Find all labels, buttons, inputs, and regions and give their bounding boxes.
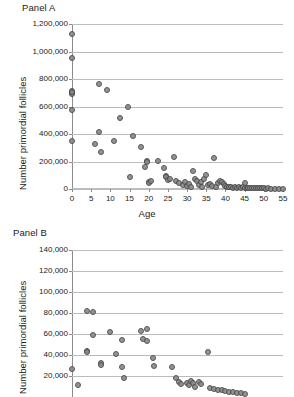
scatter-point — [69, 107, 75, 113]
scatter-point — [190, 168, 196, 174]
x-tick-label: 20 — [144, 194, 153, 203]
panel-a-plot-area: 0200,000400,000600,000800,0001,000,0001,… — [72, 24, 283, 189]
x-tick-mark — [206, 189, 207, 192]
scatter-point — [90, 309, 96, 315]
scatter-point — [211, 155, 217, 161]
gridline-horizontal — [72, 24, 283, 25]
gridline-horizontal — [72, 334, 283, 335]
scatter-point — [113, 351, 119, 357]
x-axis-ticks: 0510152025303540455055 — [72, 189, 283, 207]
y-tick-mark — [69, 134, 72, 135]
y-tick-label: 800,000 — [39, 75, 68, 83]
x-tick-mark — [187, 189, 188, 192]
y-tick-label: 600,000 — [39, 103, 68, 111]
panel-a: Panel A Number primordial follicles Age … — [0, 0, 294, 222]
y-tick-label: 200,000 — [39, 158, 68, 166]
y-tick-mark — [69, 334, 72, 335]
scatter-point — [119, 364, 125, 370]
scatter-point — [69, 366, 75, 372]
scatter-point — [171, 154, 177, 160]
scatter-point — [104, 87, 110, 93]
y-tick-mark — [69, 162, 72, 163]
scatter-point — [98, 149, 104, 155]
x-tick-label: 50 — [259, 194, 268, 203]
y-tick-mark — [69, 355, 72, 356]
scatter-point — [167, 176, 173, 182]
y-tick-label: 0 — [64, 185, 68, 193]
scatter-point — [142, 164, 148, 170]
gridline-horizontal — [72, 52, 283, 53]
gridline-horizontal — [72, 250, 283, 251]
panel-a-y-axis-title: Number primordial follicles — [17, 77, 28, 190]
x-tick-label: 5 — [89, 194, 93, 203]
y-tick-mark — [69, 313, 72, 314]
scatter-point — [75, 382, 81, 388]
scatter-point — [242, 391, 248, 397]
y-tick-mark — [69, 376, 72, 377]
scatter-point — [111, 138, 117, 144]
figure-two-panel-scatter: Panel A Number primordial follicles Age … — [0, 0, 294, 397]
x-tick-mark — [130, 189, 131, 192]
scatter-point — [150, 355, 156, 361]
gridline-horizontal — [72, 79, 283, 80]
panel-b-y-axis-title: Number primordial follicles — [17, 281, 28, 394]
panel-a-title: Panel A — [22, 2, 55, 13]
panel-b: Panel B Number primordial follicles 20,0… — [0, 222, 294, 397]
y-tick-mark — [69, 292, 72, 293]
scatter-point — [90, 332, 96, 338]
scatter-point — [125, 104, 131, 110]
gridline-horizontal — [72, 271, 283, 272]
scatter-point — [203, 172, 209, 178]
y-tick-label: 40,000 — [44, 351, 68, 359]
x-tick-mark — [72, 189, 73, 192]
scatter-point — [96, 81, 102, 87]
panel-a-x-axis-title: Age — [0, 208, 294, 219]
scatter-point — [144, 338, 150, 344]
gridline-horizontal — [72, 107, 283, 108]
scatter-point — [69, 31, 75, 37]
scatter-point — [151, 363, 157, 369]
y-tick-label: 80,000 — [44, 309, 68, 317]
gridline-horizontal — [72, 292, 283, 293]
panel-b-plot-area: 20,00040,00060,00080,000100,000120,00014… — [72, 250, 283, 397]
scatter-point — [69, 55, 75, 61]
scatter-point — [127, 174, 133, 180]
scatter-point — [138, 144, 144, 150]
x-tick-label: 15 — [125, 194, 134, 203]
x-tick-label: 45 — [240, 194, 249, 203]
x-tick-label: 35 — [202, 194, 211, 203]
y-tick-mark — [69, 52, 72, 53]
x-tick-mark — [149, 189, 150, 192]
y-tick-mark — [69, 79, 72, 80]
scatter-point — [169, 364, 175, 370]
x-tick-label: 0 — [70, 194, 74, 203]
scatter-point — [144, 326, 150, 332]
x-tick-label: 40 — [221, 194, 230, 203]
scatter-point — [161, 165, 167, 171]
x-tick-label: 10 — [106, 194, 115, 203]
scatter-point — [119, 337, 125, 343]
scatter-point — [280, 186, 286, 192]
scatter-point — [198, 381, 204, 387]
y-tick-label: 60,000 — [44, 330, 68, 338]
x-tick-mark — [110, 189, 111, 192]
y-tick-mark — [69, 271, 72, 272]
panel-b-title: Panel B — [13, 227, 47, 238]
gridline-horizontal — [72, 134, 283, 135]
scatter-point — [69, 138, 75, 144]
x-tick-mark — [91, 189, 92, 192]
y-tick-mark — [69, 250, 72, 251]
y-tick-mark — [69, 24, 72, 25]
y-tick-label: 120,000 — [39, 267, 68, 275]
scatter-point — [98, 362, 104, 368]
scatter-point — [121, 375, 127, 381]
y-tick-label: 1,000,000 — [32, 48, 68, 56]
y-tick-label: 100,000 — [39, 288, 68, 296]
y-tick-label: 1,200,000 — [32, 20, 68, 28]
scatter-point — [117, 115, 123, 121]
scatter-point — [144, 159, 150, 165]
gridline-horizontal — [72, 313, 283, 314]
y-tick-label: 400,000 — [39, 130, 68, 138]
gridline-horizontal — [72, 355, 283, 356]
y-tick-label: 20,000 — [44, 372, 68, 380]
